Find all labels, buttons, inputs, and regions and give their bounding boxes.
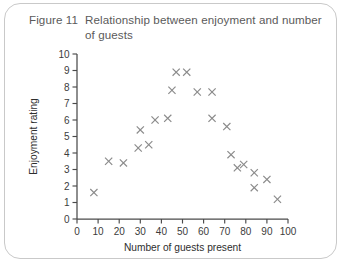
data-point [168,87,175,94]
data-point [105,158,112,165]
data-point [183,69,190,76]
y-tick-label: 4 [64,148,70,159]
data-point [208,88,215,95]
data-markers [90,69,281,203]
x-tick-label: 100 [280,226,297,237]
y-axis-title: Enjoyment rating [28,98,39,175]
y-tick-label: 10 [58,49,70,60]
x-tick-label: 90 [261,226,273,237]
y-tick-label: 1 [64,197,70,208]
x-tick-label: 70 [219,226,231,237]
data-point [151,116,158,123]
data-point [164,115,171,122]
x-tick-label: 0 [74,226,80,237]
data-point [90,189,97,196]
x-tick-label: 40 [156,226,168,237]
y-tick-label: 8 [64,82,70,93]
x-tick-label: 80 [240,226,252,237]
data-point [208,115,215,122]
y-tick-label: 5 [64,131,70,142]
y-tick-label: 0 [64,214,70,225]
data-point [137,126,144,133]
x-tick-label: 50 [177,226,189,237]
scatter-plot: 012345678910 0102030405060708090100 Numb… [5,4,338,260]
data-point [194,88,201,95]
y-tick-label: 7 [64,98,70,109]
data-point [263,176,270,183]
y-tick-label: 6 [64,115,70,126]
figure-card: Figure 11 Relationship between enjoyment… [4,3,337,259]
data-point [274,196,281,203]
x-tick-label: 30 [135,226,147,237]
x-axis-title: Number of guests present [124,242,241,253]
data-point [251,169,258,176]
data-point [145,141,152,148]
data-point [135,144,142,151]
data-point [120,159,127,166]
data-point [173,69,180,76]
x-tick-label: 10 [93,226,105,237]
y-axis: 012345678910 [58,49,77,225]
data-point [251,184,258,191]
x-tick-label: 20 [114,226,126,237]
y-tick-label: 3 [64,164,70,175]
x-axis: 0102030405060708090100 [74,219,297,237]
scatter-plot-svg: 012345678910 0102030405060708090100 Numb… [5,4,338,260]
data-point [227,151,234,158]
y-tick-label: 2 [64,181,70,192]
data-point [223,123,230,130]
y-tick-label: 9 [64,65,70,76]
x-tick-label: 60 [198,226,210,237]
